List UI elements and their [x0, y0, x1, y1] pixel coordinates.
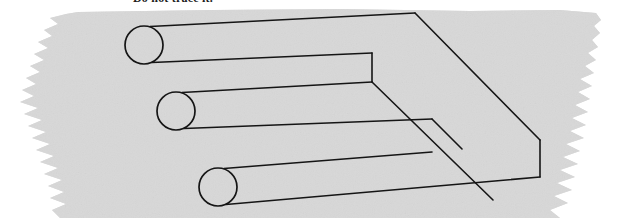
prong-middle-upper-edge — [182, 82, 372, 93]
prong-middle — [157, 82, 432, 130]
prong-top-cap-circle — [125, 26, 163, 64]
prong-middle-lower-edge — [184, 119, 432, 129]
prong-top-upper-edge — [150, 13, 415, 27]
prong-top-lower-edge — [152, 53, 372, 63]
prong-bottom-cap-circle — [199, 168, 237, 206]
flat-bar-right — [372, 13, 540, 200]
illustration-canvas: Do not trace it. — [0, 0, 626, 218]
impossible-trident-figure — [0, 0, 626, 218]
prong-middle-cap-circle — [157, 92, 195, 130]
bar-inner-diagonal-edge — [372, 82, 493, 200]
prong-bottom-upper-edge — [224, 152, 432, 169]
prong-bottom — [199, 152, 540, 206]
